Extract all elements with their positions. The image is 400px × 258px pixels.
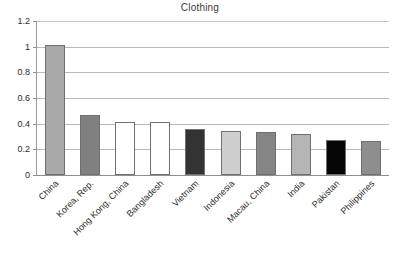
x-label-slot: Macau, China — [247, 177, 282, 257]
bar[interactable] — [115, 122, 135, 175]
x-label-slot: China — [36, 177, 71, 257]
bar[interactable] — [361, 141, 381, 175]
y-tick-label: 0.6 — [17, 94, 30, 103]
bar[interactable] — [80, 115, 100, 175]
x-axis-label: China — [37, 179, 61, 203]
x-label-slot: Philippines — [353, 177, 388, 257]
bar[interactable] — [256, 132, 276, 175]
bar[interactable] — [45, 45, 65, 175]
y-tick-label: 1 — [25, 42, 30, 51]
y-tick-label: 0.4 — [17, 119, 30, 128]
bar-slot — [37, 21, 72, 175]
bar[interactable] — [185, 129, 205, 175]
y-tick-mark — [33, 175, 37, 176]
bar-slot — [319, 21, 354, 175]
bar-slot — [283, 21, 318, 175]
x-label-slot: India — [282, 177, 317, 257]
y-tick-label: 0.2 — [17, 145, 30, 154]
bar-slot — [213, 21, 248, 175]
bar-slot — [107, 21, 142, 175]
x-label-slot: Hong Kong, China — [106, 177, 141, 257]
bar[interactable] — [291, 134, 311, 175]
bar-slot — [354, 21, 389, 175]
bar-slot — [178, 21, 213, 175]
plot-area: 00.20.40.60.811.2 — [36, 21, 389, 176]
x-label-slot: Bangladesh — [142, 177, 177, 257]
x-axis-labels: ChinaKorea, Rep.Hong Kong, ChinaBanglade… — [36, 177, 388, 257]
bar-series — [37, 21, 389, 175]
x-label-slot: Pakistan — [318, 177, 353, 257]
y-tick-label: 0.8 — [17, 68, 30, 77]
bar[interactable] — [150, 122, 170, 175]
bar-slot — [248, 21, 283, 175]
y-tick-label: 1.2 — [17, 17, 30, 26]
chart-container: Clothing 00.20.40.60.811.2 ChinaKorea, R… — [0, 0, 400, 258]
bar-slot — [143, 21, 178, 175]
x-label-slot: Vietnam — [177, 177, 212, 257]
x-axis-label: India — [286, 179, 307, 200]
bar[interactable] — [221, 131, 241, 175]
bar-slot — [72, 21, 107, 175]
chart-title: Clothing — [0, 2, 400, 13]
y-tick-label: 0 — [25, 171, 30, 180]
bar[interactable] — [326, 140, 346, 175]
